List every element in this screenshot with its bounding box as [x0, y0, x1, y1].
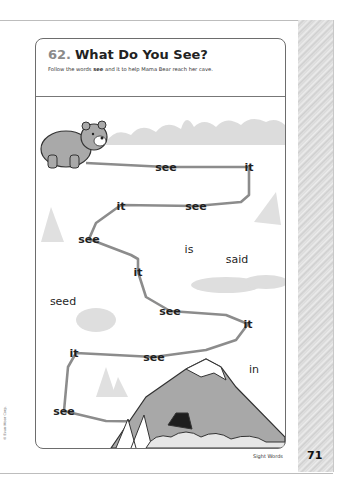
activity-title-text: What Do You See?: [75, 47, 208, 62]
maze-word-it-2[interactable]: it: [116, 201, 125, 212]
activity-number: 62.: [48, 47, 71, 62]
instructions-suffix: and it to help Mama Bear reach her cave.: [103, 66, 213, 72]
instructions-prefix: Follow the words: [48, 66, 93, 72]
maze-word-see-5[interactable]: see: [143, 352, 164, 363]
maze-word-see-4[interactable]: see: [159, 306, 180, 317]
maze-word-it-5[interactable]: it: [69, 348, 78, 359]
maze-word-see-6[interactable]: see: [53, 406, 74, 417]
footer-section-label: Sight Words: [253, 453, 283, 459]
activity-title: 62.What Do You See?: [48, 47, 208, 62]
maze-word-in[interactable]: in: [249, 364, 259, 375]
maze-word-it-1[interactable]: it: [244, 162, 253, 173]
activity-card: 62.What Do You See? Follow the words see…: [35, 38, 286, 449]
maze-word-see-2[interactable]: see: [185, 201, 206, 212]
maze-word-seed[interactable]: seed: [50, 296, 76, 307]
page-number: 71: [307, 449, 322, 462]
background-trees-icon: [106, 119, 285, 145]
maze-word-said[interactable]: said: [226, 254, 249, 265]
maze-word-it-3[interactable]: it: [133, 267, 142, 278]
page-edge-texture: [298, 20, 334, 472]
background-tree-shapes-icon: [41, 192, 281, 397]
background-clouds-icon: [76, 275, 285, 332]
copyright-notice: © Evan-Moor Corp.: [3, 406, 7, 440]
activity-instructions: Follow the words see and it to help Mama…: [48, 66, 213, 72]
maze-illustration: [36, 97, 285, 448]
maze-word-is[interactable]: is: [185, 244, 194, 255]
maze-scene: see it see it see it see it see it see i…: [36, 97, 285, 448]
activity-header: 62.What Do You See? Follow the words see…: [36, 39, 285, 97]
instructions-bold-word: see: [93, 66, 103, 72]
maze-word-see-1[interactable]: see: [155, 162, 176, 173]
maze-word-see-3[interactable]: see: [78, 234, 99, 245]
mama-bear-icon: [41, 121, 107, 168]
maze-word-it-4[interactable]: it: [243, 319, 252, 330]
